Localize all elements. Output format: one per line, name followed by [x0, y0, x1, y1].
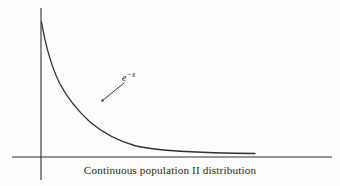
annotation-exponent: −x	[127, 70, 136, 79]
exponential-decay-plot	[0, 0, 340, 186]
figure-caption: Continuous population II distribution	[0, 164, 340, 176]
exponential-curve	[42, 22, 256, 154]
figure-container: e−x Continuous population II distributio…	[0, 0, 340, 186]
annotation-anchor-dot	[101, 99, 103, 101]
curve-annotation-label: e−x	[122, 72, 135, 83]
annotation-leader-line	[102, 83, 124, 101]
